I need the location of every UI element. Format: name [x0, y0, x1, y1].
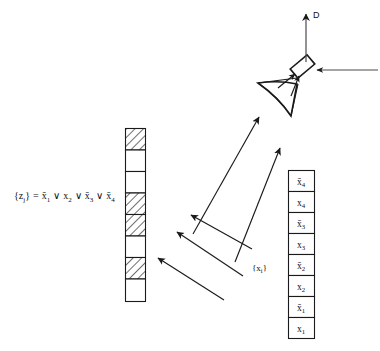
- detector-output: D: [306, 10, 320, 62]
- mask-cell-1: [126, 150, 146, 172]
- mask-cell-0: [126, 129, 146, 151]
- ray-1: [235, 148, 280, 262]
- mask-cell-4: [126, 215, 146, 237]
- equation-text: {zj}=x̄1∨x2∨x̄3∨x̄4: [14, 190, 115, 204]
- collector-horn: [258, 78, 298, 116]
- mask-cell-6: [126, 258, 146, 280]
- mask-cell-3: [126, 193, 146, 215]
- output-equation: {zj}=x̄1∨x2∨x̄3∨x̄4: [14, 190, 115, 204]
- ray-0: [193, 117, 259, 234]
- mask-cell-2: [126, 172, 146, 194]
- light-rays: [158, 117, 280, 345]
- input-column-set-label: {xi}: [252, 263, 267, 274]
- optical-diagram: x̄4 x4 x̄3 x3 x̄2 x2 x̄1 x1: [0, 0, 380, 351]
- mask-column: [126, 129, 146, 302]
- detector-label: D: [313, 10, 320, 20]
- mask-cell-7: [126, 279, 146, 302]
- ray-4: [158, 258, 224, 300]
- mask-cell-5: [126, 236, 146, 258]
- figure-canvas: x̄4 x4 x̄3 x3 x̄2 x2 x̄1 x1: [0, 0, 380, 351]
- ray-2: [191, 215, 252, 249]
